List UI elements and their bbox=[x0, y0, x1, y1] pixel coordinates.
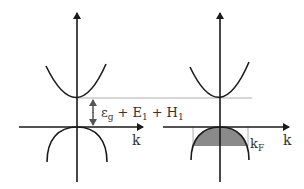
right-k-label: k bbox=[283, 132, 292, 148]
left-conduction-band bbox=[46, 64, 106, 98]
left-panel: k εg+E1+H1 bbox=[19, 13, 184, 182]
left-k-label: k bbox=[132, 132, 141, 148]
band-diagram: k εg+E1+H1 kF k bbox=[0, 0, 304, 189]
gap-label: εg+E1+H1 bbox=[101, 105, 184, 122]
right-panel: kF k bbox=[163, 13, 292, 182]
fermi-wavevector-label: kF bbox=[250, 136, 264, 153]
